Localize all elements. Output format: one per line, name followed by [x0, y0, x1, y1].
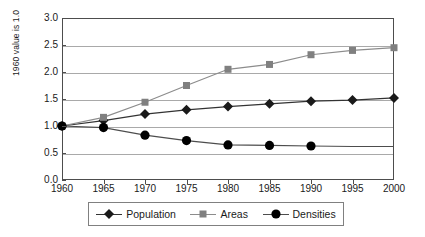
legend-entry: Population — [96, 208, 176, 220]
x-tick-mark — [187, 180, 188, 184]
gridline — [63, 154, 393, 155]
y-tick-mark — [62, 153, 66, 154]
gridline — [63, 46, 393, 47]
plot-area — [62, 18, 394, 180]
x-tick-mark — [145, 180, 146, 184]
y-tick-mark — [62, 99, 66, 100]
legend-marker-diamond-icon — [96, 208, 122, 220]
y-tick-mark — [62, 18, 66, 19]
gridline — [63, 127, 393, 128]
chart-figure: 1960 value is 1.0 0.00.51.01.52.02.53.0 … — [0, 0, 425, 237]
chart-legend: PopulationAreasDensities — [88, 202, 344, 226]
x-tick-label: 1980 — [208, 184, 248, 194]
y-tick-mark — [62, 126, 66, 127]
y-tick-label: 2.5 — [26, 40, 58, 50]
x-tick-label: 1985 — [250, 184, 290, 194]
x-tick-mark — [311, 180, 312, 184]
x-tick-label: 1975 — [167, 184, 207, 194]
y-tick-mark — [62, 180, 66, 181]
legend-marker-square-icon — [190, 208, 216, 220]
x-tick-label: 1990 — [291, 184, 331, 194]
y-tick-label: 3.0 — [26, 13, 58, 23]
x-tick-label: 2000 — [374, 184, 414, 194]
x-tick-label: 1995 — [333, 184, 373, 194]
gridline — [63, 73, 393, 74]
y-tick-mark — [62, 72, 66, 73]
legend-entry: Densities — [263, 208, 336, 220]
y-tick-label: 1.5 — [26, 94, 58, 104]
x-tick-label: 1965 — [84, 184, 124, 194]
y-tick-label: 2.0 — [26, 67, 58, 77]
y-tick-label: 1.0 — [26, 121, 58, 131]
x-tick-mark — [270, 180, 271, 184]
x-tick-mark — [104, 180, 105, 184]
y-axis-tick-labels: 0.00.51.01.52.02.53.0 — [20, 18, 58, 180]
legend-label: Densities — [293, 209, 336, 220]
y-tick-label: 0.5 — [26, 148, 58, 158]
legend-entry: Areas — [190, 208, 247, 220]
x-tick-mark — [228, 180, 229, 184]
x-tick-mark — [353, 180, 354, 184]
legend-marker-circle-icon — [263, 208, 289, 220]
legend-label: Areas — [220, 209, 247, 220]
x-tick-label: 1960 — [42, 184, 82, 194]
legend-label: Population — [126, 209, 176, 220]
gridline — [63, 100, 393, 101]
x-tick-label: 1970 — [125, 184, 165, 194]
y-tick-mark — [62, 45, 66, 46]
